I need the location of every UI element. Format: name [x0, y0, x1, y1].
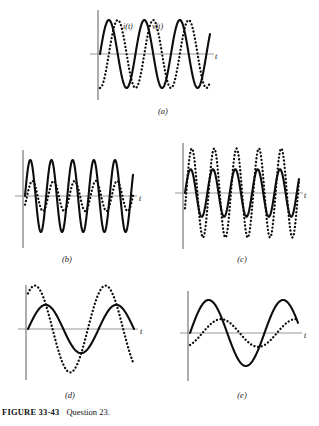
- panel-b: t: [13, 146, 148, 251]
- panel-e: t: [178, 289, 313, 384]
- panel-label-c: (c): [222, 254, 262, 264]
- panel-label-d: (d): [50, 390, 90, 400]
- figure-question: Question 23.: [66, 407, 109, 417]
- curve-label-current: i(t): [123, 22, 133, 31]
- waveform-plot-d: [16, 283, 151, 383]
- axis-label-t-a: t: [215, 52, 217, 61]
- axis-label-t-e: t: [304, 331, 306, 340]
- waveform-plot-b: [13, 146, 148, 251]
- panel-d: t: [16, 283, 151, 383]
- axis-label-t-c: t: [304, 191, 306, 200]
- panel-label-b: (b): [47, 254, 87, 264]
- waveform-plot-e: [178, 289, 313, 384]
- waveform-plot-c: [173, 141, 313, 253]
- panel-a: i(t) v(t) t: [88, 8, 228, 103]
- figure-number: FIGURE 33-43: [2, 407, 59, 417]
- curve-label-voltage: v(t): [152, 22, 163, 31]
- figure-caption: FIGURE 33-43Question 23.: [2, 407, 110, 417]
- panel-label-e: (e): [222, 390, 262, 400]
- axis-label-t-b: t: [139, 194, 141, 203]
- panel-label-a: (a): [143, 106, 183, 116]
- panel-c: t: [173, 141, 313, 253]
- axis-label-t-d: t: [140, 327, 142, 336]
